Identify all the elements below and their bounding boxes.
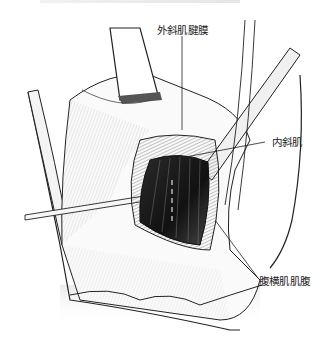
label-transversus-belly: 腹横肌肌腹 xyxy=(259,273,310,288)
label-internal-oblique: 内斜肌 xyxy=(272,134,303,149)
anatomy-illustration xyxy=(0,0,335,341)
label-external-oblique-aponeurosis: 外斜肌腱膜 xyxy=(157,22,208,37)
